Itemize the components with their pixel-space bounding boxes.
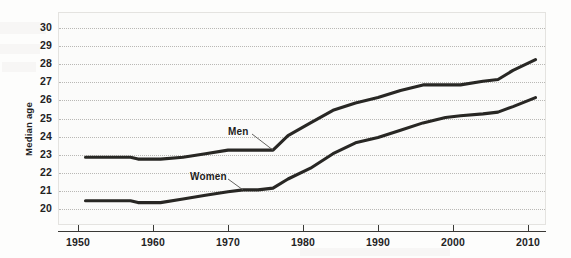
x-axis-tick-label: 1970	[203, 236, 253, 248]
series-label-men: Men	[228, 126, 249, 137]
gridline	[59, 209, 545, 210]
y-axis-tick-label: 22	[28, 166, 52, 178]
x-axis-tick-label: 2010	[503, 236, 553, 248]
plot-area	[58, 12, 546, 225]
gridline	[59, 173, 545, 174]
y-axis-tick-label: 29	[28, 39, 52, 51]
y-axis-tick-label: 26	[28, 93, 52, 105]
gridline	[59, 191, 545, 192]
x-axis-tick-mark	[78, 225, 79, 232]
x-axis-tick-label: 1960	[128, 236, 178, 248]
x-axis-tick-label: 1990	[353, 236, 403, 248]
x-axis-tick-mark	[228, 225, 229, 232]
gridline	[59, 46, 545, 47]
x-axis-tick-mark	[528, 225, 529, 232]
x-axis-tick-mark	[453, 225, 454, 232]
gridline	[59, 64, 545, 65]
y-axis-tick-label: 21	[28, 184, 52, 196]
y-axis-tick-label: 23	[28, 148, 52, 160]
x-axis-tick-mark	[153, 225, 154, 232]
gridline	[59, 155, 545, 156]
x-axis-tick-label: 1950	[53, 236, 103, 248]
median-age-line-chart: Median age 2021222324252627282930 195019…	[0, 0, 571, 258]
y-axis-tick-label: 25	[28, 112, 52, 124]
gridline	[59, 137, 545, 138]
x-axis-tick-label: 1980	[278, 236, 328, 248]
y-axis-tick-label: 24	[28, 130, 52, 142]
gridline	[59, 100, 545, 101]
x-axis-tick-mark	[303, 225, 304, 232]
series-label-women: Women	[190, 171, 227, 182]
y-axis-tick-label: 30	[28, 21, 52, 33]
x-axis-tick-label: 2000	[428, 236, 478, 248]
x-axis-line	[58, 231, 546, 232]
y-axis-tick-label: 28	[28, 57, 52, 69]
gridline	[59, 119, 545, 120]
paper-texture-mark	[300, 248, 450, 256]
gridline	[59, 28, 545, 29]
y-axis-tick-label: 20	[28, 202, 52, 214]
gridline	[59, 82, 545, 83]
x-axis-tick-mark	[378, 225, 379, 232]
y-axis-tick-label: 27	[28, 75, 52, 87]
